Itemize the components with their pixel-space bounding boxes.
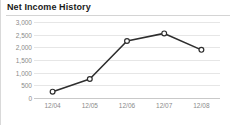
y-axis-tick-label: 2,000 <box>2 44 32 51</box>
y-axis-tick-label: 3,000 <box>2 19 32 26</box>
x-axis-baseline <box>34 98 220 99</box>
data-point-marker <box>199 47 204 52</box>
title-divider <box>6 15 230 16</box>
y-axis-tick-label: 0 <box>2 95 32 102</box>
y-axis-tick-label: 1,000 <box>2 69 32 76</box>
x-axis-tick-label: 12/07 <box>156 102 172 109</box>
x-axis-tick-label: 12/08 <box>193 102 209 109</box>
data-point-marker <box>50 89 55 94</box>
x-axis-tick-label: 12/05 <box>82 102 98 109</box>
data-point-marker <box>87 77 92 82</box>
x-axis-tick-label: 12/04 <box>44 102 60 109</box>
page-title: Net Income History <box>7 2 91 12</box>
y-axis-tick-label: 2,500 <box>2 31 32 38</box>
data-point-marker <box>125 39 130 44</box>
y-axis-tick-label: 500 <box>2 82 32 89</box>
data-point-marker <box>162 31 167 36</box>
net-income-history-widget: Net Income History 3,0002,5002,0001,5001… <box>0 0 236 125</box>
y-axis-tick-label: 1,500 <box>2 57 32 64</box>
x-axis-labels: 12/0412/0512/0612/0712/08 <box>34 102 220 116</box>
chart-plot-area <box>34 22 220 98</box>
line-chart-svg <box>34 22 220 98</box>
y-axis-labels: 3,0002,5002,0001,5001,0005000 <box>0 22 32 98</box>
x-axis-tick-label: 12/06 <box>119 102 135 109</box>
